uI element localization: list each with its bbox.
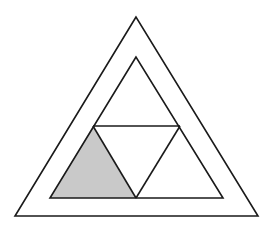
diagram-canvas bbox=[0, 0, 275, 226]
inner-diagonal-right bbox=[136, 126, 180, 198]
triangles-figure bbox=[0, 0, 275, 226]
outer-triangle bbox=[15, 17, 258, 216]
